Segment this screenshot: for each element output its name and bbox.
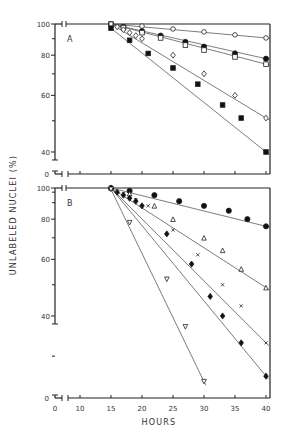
data-point (239, 116, 244, 121)
data-point (264, 285, 269, 290)
data-point (152, 193, 157, 198)
data-point (171, 217, 176, 222)
series-filled-circle (108, 21, 270, 61)
data-point (220, 103, 225, 108)
x-tick-label: 10 (76, 405, 85, 413)
data-point (158, 36, 163, 41)
figure: 1008060400A 1008060400B UNLABELED NUCLEI… (0, 0, 298, 440)
y-tick-label: 40 (41, 149, 50, 157)
series-cross (109, 186, 268, 345)
data-point (140, 203, 145, 209)
x-tick-label: 40 (262, 405, 271, 413)
data-point (239, 267, 244, 272)
panel-letter: B (67, 199, 73, 208)
series-open-triangle (109, 186, 270, 290)
series-open-square (109, 22, 270, 67)
x-tick-label: 35 (231, 405, 240, 413)
data-point (202, 236, 207, 241)
data-point (202, 48, 207, 53)
y-tick-label: 0 (45, 171, 49, 179)
data-point (226, 208, 231, 213)
data-point (134, 198, 139, 204)
data-point (264, 115, 269, 121)
x-tick-label: 30 (200, 405, 209, 413)
data-point (171, 52, 176, 58)
data-point (202, 30, 207, 35)
x-tick-label: 25 (169, 405, 178, 413)
y-tick-label: 60 (41, 92, 50, 100)
x-axis-label: HOURS (142, 418, 177, 427)
data-point (264, 150, 269, 155)
x-tick-label: 0 (53, 405, 57, 413)
y-tick-label: 60 (41, 256, 50, 264)
y-tick-label: 100 (37, 185, 50, 193)
data-point (109, 26, 114, 31)
y-tick-label: 100 (37, 21, 50, 29)
data-point (165, 277, 170, 282)
panel-b: 1008060400B (37, 185, 270, 403)
data-point (183, 325, 188, 330)
y-tick-label: 80 (41, 216, 50, 224)
data-point (177, 199, 182, 204)
data-point (127, 38, 132, 43)
data-point (208, 293, 213, 299)
data-point (263, 56, 268, 61)
x-tick-label: 20 (138, 405, 147, 413)
data-point (201, 203, 206, 208)
data-point (146, 51, 151, 56)
series-filled-square (109, 26, 269, 155)
data-point (189, 261, 194, 267)
data-point (263, 224, 268, 229)
data-point (239, 340, 244, 346)
y-axis-label: UNLABELED NUCLEI (%) (9, 155, 18, 275)
x-tick-label: 15 (107, 405, 116, 413)
data-point (233, 92, 238, 98)
data-point (264, 36, 269, 41)
data-point (165, 231, 170, 237)
data-point (202, 379, 207, 384)
data-point (152, 204, 157, 209)
y-tick-label: 40 (41, 313, 50, 321)
panel-a: 1008060400A (37, 21, 270, 192)
panel-letter: A (67, 35, 73, 44)
data-point (233, 33, 238, 38)
data-point (171, 27, 176, 32)
data-point (140, 30, 145, 35)
y-tick-label: 80 (41, 52, 50, 60)
data-point (140, 36, 145, 42)
data-point (140, 24, 145, 29)
data-point (220, 313, 225, 319)
data-point (171, 66, 176, 71)
data-point (233, 55, 238, 60)
series-filled-circle (108, 185, 269, 229)
data-point (220, 248, 225, 253)
data-point (264, 62, 269, 67)
data-point (183, 43, 188, 48)
data-point (202, 71, 207, 77)
data-point (196, 82, 201, 87)
data-point (245, 217, 250, 222)
y-tick-label: 0 (45, 395, 49, 403)
